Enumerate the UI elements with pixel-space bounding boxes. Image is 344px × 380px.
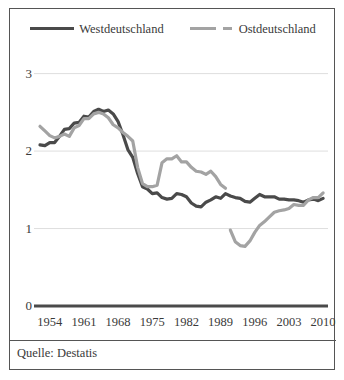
series-layer [40, 109, 323, 246]
source-note: Quelle: Destatis [17, 347, 97, 360]
chart-figure: Westdeutschland Ostdeutschland 0123 1954… [9, 8, 335, 370]
series-line-ostdeutschland-seg0 [40, 112, 225, 188]
y-tick-label-1: 1 [12, 222, 32, 235]
y-tick-label-0: 0 [12, 299, 32, 312]
series-line-westdeutschland [40, 109, 323, 207]
y-tick-label-3: 3 [12, 67, 32, 80]
x-tick-label-2010: 2010 [301, 316, 344, 329]
plot-area: 0123 19541961196819751982198919962003201… [10, 9, 336, 371]
y-tick-label-2: 2 [12, 144, 32, 157]
y-gridlines [34, 74, 328, 229]
source-divider [10, 340, 336, 341]
